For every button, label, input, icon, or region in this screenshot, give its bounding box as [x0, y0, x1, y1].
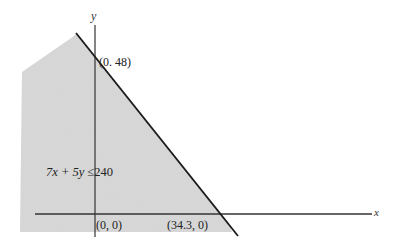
y-axis-label: y	[91, 10, 96, 22]
inequality-label: 7x + 5y ≤240	[46, 166, 113, 179]
graph-canvas	[0, 0, 415, 244]
y-intercept-label: (0. 48)	[99, 56, 131, 68]
x-axis-label: x	[374, 207, 379, 218]
inequality-graph: y x (0. 48) (0, 0) (34.3, 0) 7x + 5y ≤24…	[0, 0, 415, 244]
x-intercept-label: (34.3, 0)	[167, 219, 208, 231]
inequality-rhs: 240	[94, 165, 113, 179]
origin-label: (0, 0)	[96, 219, 122, 231]
inequality-lhs: 7x + 5y	[46, 165, 84, 179]
